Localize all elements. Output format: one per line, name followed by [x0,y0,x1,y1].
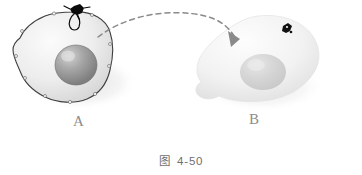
transfer-arrow-path [98,13,234,37]
cell-a-nucleus-highlight [61,51,75,62]
cell-b-nucleus [240,54,286,90]
cell-label-a: A [73,114,84,129]
figure-caption: 图4-50 [0,152,362,168]
cell-label-b: B [249,112,260,127]
figure-caption-number: 4-50 [177,155,203,167]
figure-container: A B 图4-50 [0,0,362,175]
cell-b-nucleus-highlight [247,59,265,71]
cell-a-nucleus [55,45,97,85]
figure-caption-prefix: 图 [159,155,170,167]
cell-transfer-diagram [0,0,362,175]
